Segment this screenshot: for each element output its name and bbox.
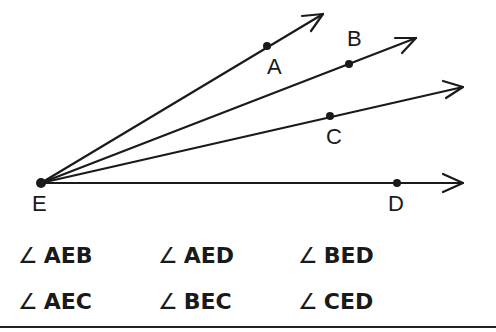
bottom-divider [0,326,496,328]
label-c: C [326,126,342,148]
label-a: A [267,56,282,78]
label-b: B [347,28,362,50]
point-d [393,179,401,187]
angle-symbol-icon: ∠ [18,289,38,314]
angle-symbol-icon: ∠ [298,243,318,268]
angle-symbol-icon: ∠ [18,243,38,268]
point-e [36,178,46,188]
point-c [326,112,334,120]
point-b [345,60,353,68]
label-d: D [388,193,404,215]
ray-ea [41,14,323,183]
angle-aec: ∠AEC [18,291,92,313]
angle-aeb: ∠AEB [18,245,93,267]
label-e: E [32,193,47,215]
angle-symbol-icon: ∠ [158,243,178,268]
angle-bec: ∠BEC [158,291,232,313]
angle-aed: ∠AED [158,245,234,267]
angle-symbol-icon: ∠ [158,289,178,314]
ray-diagram [0,0,496,332]
point-a [263,42,271,50]
angle-ced: ∠CED [298,291,373,313]
angle-symbol-icon: ∠ [298,289,318,314]
angle-bed: ∠BED [298,245,374,267]
